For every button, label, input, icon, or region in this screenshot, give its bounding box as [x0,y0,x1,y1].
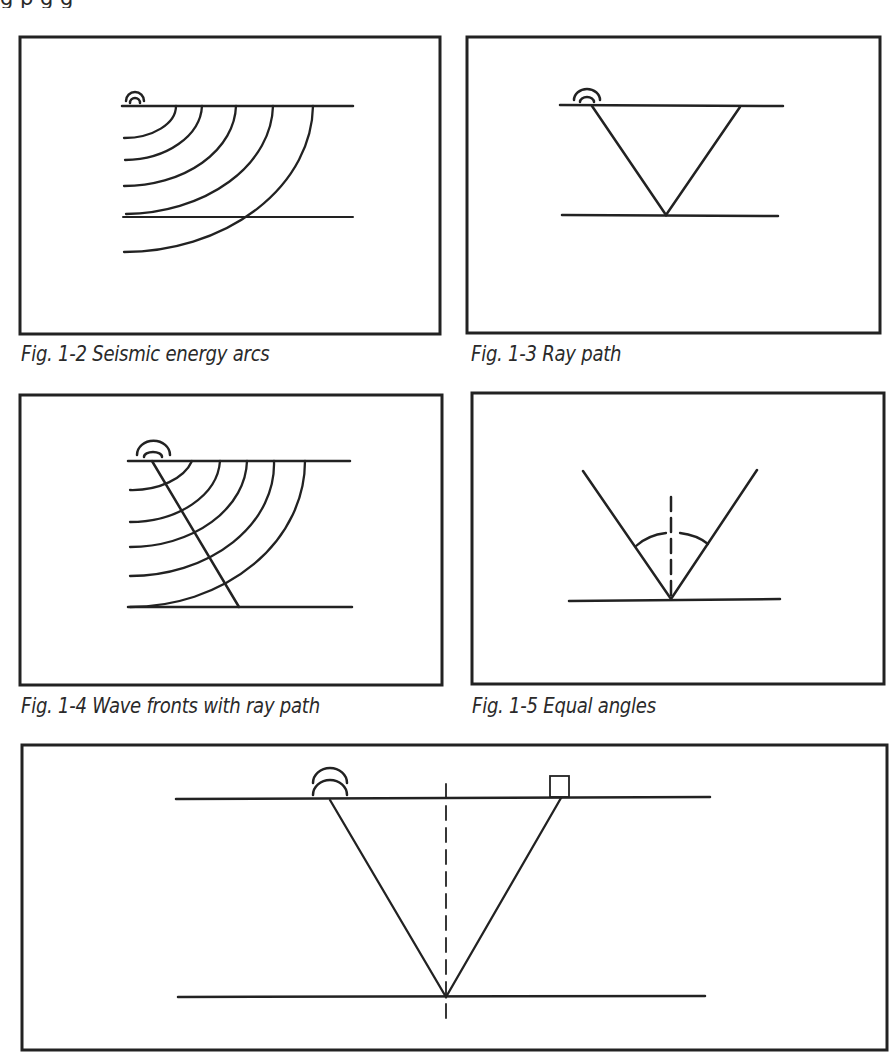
ray-line [152,461,239,607]
caption-fig-1-3: Fig. 1-3 Ray path [471,342,621,366]
caption-fig-1-4: Fig. 1-4 Wave fronts with ray path [21,694,320,718]
source-icon [137,441,170,457]
figure-frame [467,37,880,333]
wavefront-arcs [130,461,305,607]
caption-fig-1-2: Fig. 1-2 Seismic energy arcs [21,342,269,366]
ray-path [592,106,740,215]
figure-1-2 [20,37,440,334]
figure-frame [472,393,884,684]
figure-frame [22,745,887,1050]
source-icon [574,89,600,102]
wavefront-arcs [124,106,313,252]
receiver-icon [550,776,569,797]
surface-line [176,797,710,799]
surface-line [560,105,783,106]
figure-frame [20,395,442,685]
figure-1-3 [467,37,880,333]
reflector-line [562,215,778,216]
figure-1-5 [472,393,884,684]
reflector-line [569,599,780,601]
figure-1-4 [20,395,442,685]
caption-fig-1-5: Fig. 1-5 Equal angles [472,694,656,718]
figure-frame [20,37,440,334]
reflector-line [178,996,705,997]
figure-1-6 [22,745,887,1050]
incident-and-reflected-rays [583,470,757,599]
source-icon [126,92,144,103]
source-icon [313,768,347,795]
figures-canvas [0,0,896,1055]
